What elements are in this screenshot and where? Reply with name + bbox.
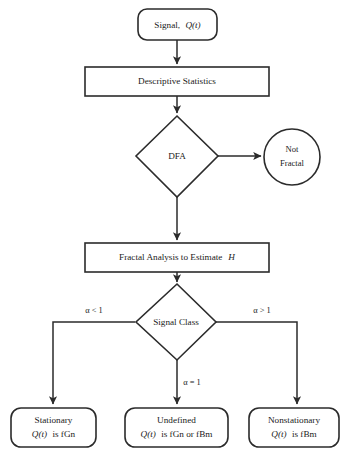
node-signal-label-italic: Q(t) xyxy=(185,20,200,30)
node-signal[interactable]: Signal, Q(t) xyxy=(138,9,217,40)
node-stationary-line2-italic: Q(t) xyxy=(32,429,47,439)
node-nonstationary[interactable]: Nonstationary Q(t) is fBm xyxy=(249,408,339,447)
node-descriptive-statistics-label: Descriptive Statistics xyxy=(138,76,216,86)
node-not-fractal-label-line1: Not xyxy=(286,144,300,154)
node-signal-label: Signal, Q(t) xyxy=(154,20,200,30)
node-undefined-line2-italic: Q(t) xyxy=(141,429,156,439)
node-nonstationary-line1: Nonstationary xyxy=(268,415,320,425)
node-undefined-line1: Undefined xyxy=(157,415,196,425)
edge-label-alpha-lt-1: α < 1 xyxy=(85,306,103,315)
node-fractal-analysis-label-plain: Fractal Analysis to Estimate xyxy=(119,252,222,262)
node-nonstationary-line2: Q(t) is fBm xyxy=(271,429,316,439)
node-signal-class-label: Signal Class xyxy=(153,317,199,327)
node-stationary-shape xyxy=(11,408,96,447)
node-undefined[interactable]: Undefined Q(t) is fGn or fBm xyxy=(125,408,228,447)
node-not-fractal[interactable]: Not Fractal xyxy=(264,129,320,185)
node-stationary-line2-plain: is fGn xyxy=(52,429,75,439)
node-undefined-line2-plain: is fGn or fBm xyxy=(161,429,212,439)
node-dfa[interactable]: DFA xyxy=(136,116,218,197)
node-descriptive-statistics[interactable]: Descriptive Statistics xyxy=(85,67,269,96)
node-undefined-line2: Q(t) is fGn or fBm xyxy=(141,429,213,439)
node-fractal-analysis-label: Fractal Analysis to Estimate H xyxy=(119,252,236,262)
connector-signal-class-to-stationary xyxy=(53,322,135,404)
node-not-fractal-label-line2: Fractal xyxy=(280,158,304,168)
node-dfa-label: DFA xyxy=(168,151,186,161)
node-fractal-analysis[interactable]: Fractal Analysis to Estimate H xyxy=(85,243,269,272)
node-nonstationary-line2-plain: is fBm xyxy=(292,429,317,439)
node-nonstationary-line2-italic: Q(t) xyxy=(271,429,286,439)
node-signal-label-plain: Signal, xyxy=(154,20,180,30)
edge-label-alpha-eq-1: α = 1 xyxy=(183,378,201,387)
edge-label-alpha-gt-1: α > 1 xyxy=(253,306,271,315)
node-stationary[interactable]: Stationary Q(t) is fGn xyxy=(11,408,96,447)
node-stationary-line1: Stationary xyxy=(35,415,73,425)
node-signal-class[interactable]: Signal Class xyxy=(136,284,216,360)
node-stationary-line2: Q(t) is fGn xyxy=(32,429,76,439)
node-undefined-shape xyxy=(125,408,228,447)
node-nonstationary-shape xyxy=(249,408,339,447)
connector-signal-class-to-nonstationary xyxy=(216,322,297,404)
flowchart-svg: α < 1 α = 1 α > 1 Signal, Q(t) Descripti… xyxy=(0,0,350,458)
